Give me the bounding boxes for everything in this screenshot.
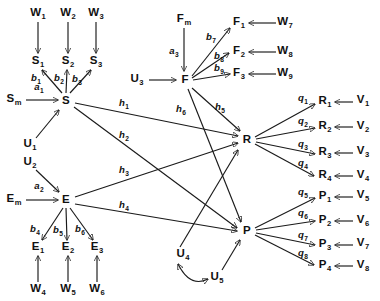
- node-v6: V6: [357, 214, 370, 228]
- node-sm: Sm: [6, 93, 21, 107]
- node-subscript: 4: [185, 253, 189, 262]
- coefficient-base-letter: q: [298, 138, 304, 149]
- node-base-letter: S: [62, 94, 70, 106]
- coefficient-b1: b1: [31, 73, 41, 86]
- coefficient-base-letter: q: [298, 247, 304, 258]
- node-subscript: 1: [42, 12, 46, 21]
- node-r1: R1: [318, 95, 331, 109]
- node-r: R: [243, 134, 252, 146]
- node-base-letter: W: [60, 6, 71, 18]
- node-subscript: 3: [365, 150, 369, 159]
- node-r3: R3: [318, 146, 331, 160]
- coefficient-subscript: 4: [304, 163, 308, 170]
- node-base-letter: S: [32, 54, 40, 66]
- node-subscript: 4: [365, 174, 369, 183]
- node-subscript: 2: [32, 161, 36, 170]
- node-base-letter: F: [233, 66, 240, 78]
- node-subscript: 3: [99, 246, 103, 255]
- node-subscript: 2: [72, 12, 76, 21]
- node-subscript: 2: [70, 246, 74, 255]
- node-subscript: 5: [219, 276, 223, 285]
- node-base-letter: U: [23, 137, 32, 149]
- coefficient-subscript: 8: [304, 253, 308, 260]
- node-base-letter: V: [357, 93, 365, 105]
- node-subscript: 3: [100, 12, 104, 21]
- coefficient-base-letter: h: [119, 199, 125, 210]
- node-base-letter: S: [6, 92, 14, 104]
- node-base-letter: F: [181, 73, 188, 85]
- node-p4: P4: [319, 259, 332, 273]
- coefficient-h2: h2: [119, 130, 129, 143]
- node-base-letter: V: [357, 258, 365, 270]
- coefficient-subscript: 6: [304, 213, 308, 220]
- node-subscript: 8: [289, 50, 293, 59]
- coefficient-base-letter: b: [53, 224, 59, 235]
- edges-v-to-indicators: [335, 102, 353, 266]
- coefficient-subscript: 6: [182, 109, 186, 116]
- node-subscript: m: [184, 18, 191, 27]
- coefficient-base-letter: b: [54, 72, 60, 83]
- node-base-letter: V: [357, 168, 365, 180]
- coefficient-base-letter: h: [119, 97, 125, 108]
- edge-U4-R: [180, 150, 238, 247]
- node-base-letter: F: [233, 15, 240, 27]
- coefficient-subscript: 6: [81, 229, 85, 236]
- coefficient-base-letter: b: [206, 31, 212, 42]
- coefficient-subscript: 3: [125, 170, 129, 177]
- edge-F-F3: [193, 74, 230, 80]
- node-r4: R4: [318, 169, 331, 183]
- coefficient-q4: q4: [298, 158, 308, 171]
- node-base-letter: P: [319, 258, 327, 270]
- coefficient-subscript: 8: [220, 56, 224, 63]
- node-p: P: [243, 225, 251, 237]
- node-subscript: 7: [289, 21, 293, 30]
- node-base-letter: W: [277, 44, 288, 56]
- node-base-letter: V: [357, 119, 365, 131]
- coefficient-base-letter: h: [176, 103, 182, 114]
- node-w7: W7: [277, 16, 293, 30]
- coefficient-subscript: 1: [125, 103, 129, 110]
- coefficient-base-letter: h: [215, 101, 221, 112]
- node-base-letter: S: [62, 54, 70, 66]
- coefficient-subscript: 2: [60, 78, 64, 85]
- node-v4: V4: [357, 169, 370, 183]
- coefficient-base-letter: b: [30, 223, 36, 234]
- node-base-letter: P: [319, 213, 327, 225]
- node-u5: U5: [210, 271, 223, 285]
- coefficient-subscript: 5: [221, 107, 225, 114]
- node-subscript: 2: [327, 219, 331, 228]
- coefficient-h5: h5: [215, 102, 225, 115]
- node-v3: V3: [357, 145, 370, 159]
- node-w6: W6: [89, 283, 105, 297]
- node-subscript: 3: [241, 72, 245, 81]
- coefficient-h3: h3: [119, 165, 129, 178]
- node-base-letter: W: [30, 6, 41, 18]
- coefficient-h6: h6: [176, 104, 186, 117]
- coefficient-subscript: 3: [175, 51, 179, 58]
- edge-U5-P: [222, 240, 240, 270]
- coefficient-base-letter: b: [75, 223, 81, 234]
- node-subscript: 1: [40, 246, 44, 255]
- node-fm: Fm: [177, 13, 191, 27]
- node-p1: P1: [319, 190, 332, 204]
- coefficient-a3: a3: [169, 46, 178, 59]
- node-base-letter: W: [277, 15, 288, 27]
- coefficient-q3: q3: [298, 139, 308, 152]
- node-subscript: 1: [327, 195, 331, 204]
- edges-e-to-indicators: [42, 208, 93, 240]
- node-subscript: 6: [101, 288, 105, 297]
- node-w9: W9: [277, 67, 293, 81]
- node-base-letter: W: [88, 6, 99, 18]
- coefficient-base-letter: q: [298, 115, 304, 126]
- coefficient-base-letter: q: [298, 229, 304, 240]
- coefficient-q8: q8: [298, 248, 308, 261]
- coefficient-b5: b5: [53, 225, 63, 238]
- node-s1: S1: [32, 55, 45, 69]
- node-u1: U1: [23, 138, 36, 152]
- edge-E-E2: [66, 208, 67, 240]
- edge-S-P-h2: [74, 107, 237, 228]
- node-w4: W4: [30, 283, 46, 297]
- node-subscript: m: [15, 198, 22, 207]
- coefficient-base-letter: q: [298, 92, 304, 103]
- coefficient-q6: q6: [298, 208, 308, 221]
